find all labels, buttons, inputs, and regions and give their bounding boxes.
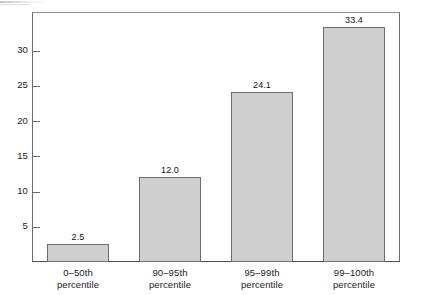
y-axis-tick-label: 30 [0, 45, 28, 56]
y-axis-tick-label: 25 [0, 80, 28, 91]
y-axis-tick-label: 10 [0, 186, 28, 197]
x-axis-category-label: 0–50thpercentile [32, 267, 124, 290]
y-axis-tick-label-text: 15 [2, 151, 28, 161]
x-axis-category-label-line1: 90–95th [152, 267, 187, 278]
y-axis-tick-label-text: 20 [2, 116, 28, 126]
x-axis-category-label-line2: percentile [124, 279, 216, 291]
x-axis-category-label-line1: 0–50th [63, 267, 93, 278]
y-axis-tick-label-text: 10 [2, 186, 28, 196]
bar-chart-figure: 51015202530 2.512.024.133.4 0–50thpercen… [0, 0, 425, 295]
y-axis-tick-label-text: 25 [2, 80, 28, 90]
y-axis-tick [33, 156, 40, 157]
bar [231, 92, 293, 262]
bar-value-label: 12.0 [145, 166, 195, 175]
x-axis-category-label: 90–95thpercentile [124, 267, 216, 290]
y-axis-tick-label: 15 [0, 151, 28, 162]
x-axis-category-label-line1: 99–100th [334, 267, 374, 278]
bar-value-label: 33.4 [329, 16, 379, 25]
x-axis-category-label-line2: percentile [308, 279, 400, 291]
x-axis-category-label-line2: percentile [216, 279, 308, 291]
y-axis-tick-label-text: 5 [2, 221, 28, 231]
scan-artifact-secondary [0, 4, 30, 5]
bar-value-label: 24.1 [237, 81, 287, 90]
y-axis-tick [33, 227, 40, 228]
y-axis-tick-label: 5 [0, 221, 28, 232]
y-axis-tick [33, 86, 40, 87]
x-axis-category-label: 95–99thpercentile [216, 267, 308, 290]
y-axis-tick-label-text: 30 [2, 45, 28, 55]
y-axis-tick [33, 192, 40, 193]
bar [47, 244, 109, 262]
bar [139, 177, 201, 262]
bar-value-label: 2.5 [53, 233, 103, 242]
x-axis-category-label-line1: 95–99th [244, 267, 279, 278]
y-axis-tick-label: 20 [0, 116, 28, 127]
y-axis-tick [33, 51, 40, 52]
scan-artifact [0, 1, 48, 3]
x-axis-category-label: 99–100thpercentile [308, 267, 400, 290]
x-axis-category-label-line2: percentile [32, 279, 124, 291]
y-axis-tick [33, 121, 40, 122]
bar [323, 27, 385, 262]
